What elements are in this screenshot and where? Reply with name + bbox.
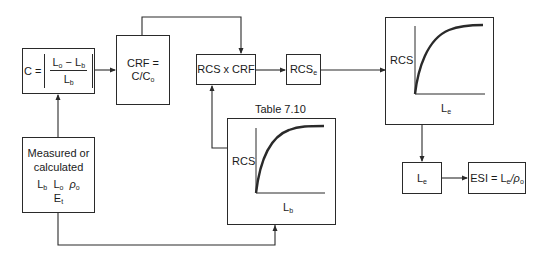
esi-formula-label: ESI = Le/ρo <box>470 172 524 185</box>
crf-line1: CRF = <box>127 57 159 70</box>
measured-line2: calculated <box>34 160 84 174</box>
concentration-formula-box: C = Lo − Lb Lb <box>22 48 95 94</box>
output-graph-plot <box>385 17 494 125</box>
rcs-e-box: RCSe <box>286 54 321 85</box>
table-graph-x-label: Lb <box>283 201 293 213</box>
table-rcs-vs-lb-graph: RCS Lb <box>227 118 336 225</box>
crf-formula-box: CRF = C/Co <box>116 35 170 105</box>
c-equals-label: C = <box>24 65 41 78</box>
table-graph-plot <box>227 118 336 225</box>
esi-formula-box: ESI = Le/ρo <box>468 162 526 194</box>
rcs-e-label: RCSe <box>290 63 317 76</box>
measured-inputs-box: Measured or calculated Lb Lo ρo Et <box>22 137 95 213</box>
crf-line2: C/Co <box>132 70 155 83</box>
rcs-times-crf-box: RCS x CRF <box>196 54 256 85</box>
measured-line4: Et <box>54 191 63 205</box>
fraction: Lo − Lb Lb <box>50 56 87 86</box>
output-graph-y-label: RCS <box>390 54 413 66</box>
table-graph-caption: Table 7.10 <box>255 103 306 115</box>
measured-vars: Lb Lo ρo <box>37 177 80 191</box>
output-rcs-vs-le-graph: RCS Le <box>385 17 494 125</box>
measured-line1: Measured or <box>28 146 90 160</box>
rcs-times-crf-label: RCS x CRF <box>197 63 254 76</box>
le-box: Le <box>402 162 442 194</box>
fraction-denominator: Lb <box>64 71 74 86</box>
output-graph-x-label: Le <box>441 102 451 114</box>
le-label: Le <box>417 172 427 185</box>
table-graph-y-label: RCS <box>232 155 255 167</box>
absolute-value-bars: Lo − Lb Lb <box>44 54 93 88</box>
fraction-numerator: Lo − Lb <box>50 56 87 71</box>
